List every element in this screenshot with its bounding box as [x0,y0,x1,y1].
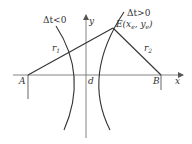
r2-label: r2 [144,43,152,54]
point-e-label: E(xe, ye) [115,19,153,30]
distance-d-label: d [88,76,94,86]
range-line-r2 [113,28,161,75]
hyperbola-branch-right [99,12,124,130]
r1-label: r1 [52,43,60,54]
x-axis-label: x [175,76,180,86]
delta-t-negative-label: Δt<0 [43,15,67,25]
y-axis-label: y [88,16,95,26]
hyperbola-branch-left [56,26,74,130]
delta-t-positive-label: Δt>0 [127,8,151,18]
point-a-label: A [18,76,26,86]
point-b-label: B [152,76,160,86]
tdoa-diagram: Δt<0 Δt>0 y x A B d r1 r2 E(xe, ye) [0,0,192,144]
